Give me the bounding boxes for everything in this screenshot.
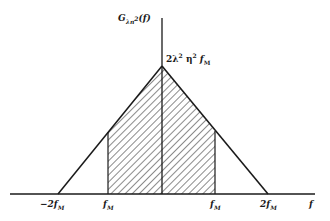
y-label-base: G [118, 13, 126, 23]
tick-sub: M [270, 204, 277, 211]
tick-sub: M [107, 204, 114, 211]
peak-f: f [197, 54, 204, 64]
y-label-subscript: λn [126, 18, 135, 25]
peak-eta: η [183, 54, 193, 64]
peak-sub-m: M [204, 59, 211, 66]
tick-label-pos-2fm: 2fM [260, 200, 277, 209]
tick-label-neg-fm: fM [103, 200, 114, 209]
x-axis-label: f [309, 200, 313, 209]
tick-label-pos-fm: fM [210, 200, 221, 209]
tick-prefix: −2 [40, 199, 54, 209]
y-label-argument: (f) [138, 13, 150, 23]
y-axis-label: Gλn2(f) [118, 14, 151, 23]
tick-sub: M [58, 204, 65, 211]
psd-diagram [0, 0, 330, 221]
peak-coef: 2λ [166, 54, 179, 64]
peak-label: 2λ2 η2 fM [166, 55, 210, 64]
tick-sub: M [214, 204, 221, 211]
tick-label-neg-2fm: −2fM [40, 200, 64, 209]
